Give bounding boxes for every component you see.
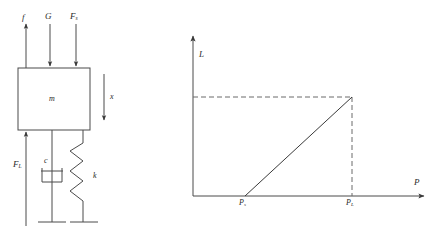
label-damper-c: c bbox=[44, 157, 48, 165]
chart-xtick-PL: PL bbox=[346, 199, 354, 208]
label-force-FL: FL bbox=[13, 160, 22, 170]
label-force-Fs: Fs bbox=[70, 12, 78, 22]
label-mass-m: m bbox=[49, 95, 55, 103]
label-force-f: f bbox=[22, 13, 25, 22]
chart-ylabel-L: L bbox=[199, 50, 204, 59]
label-force-FL-sub: L bbox=[19, 163, 22, 169]
chart-xlabel-P: P bbox=[414, 178, 420, 187]
chart-xtick-Ps: Ps bbox=[239, 199, 246, 208]
right-chart-group bbox=[193, 36, 424, 196]
technical-figure bbox=[0, 0, 441, 230]
chart-xtick-Ps-sub: s bbox=[244, 202, 246, 207]
spring-coil bbox=[70, 143, 83, 206]
label-force-G: G bbox=[45, 12, 52, 21]
chart-data-line bbox=[245, 97, 352, 196]
left-diagram-group bbox=[18, 24, 104, 226]
label-spring-k: k bbox=[93, 172, 97, 180]
label-displacement-x: x bbox=[110, 93, 114, 101]
label-force-Fs-sub: s bbox=[76, 15, 78, 21]
chart-xtick-PL-sub: L bbox=[351, 202, 354, 207]
